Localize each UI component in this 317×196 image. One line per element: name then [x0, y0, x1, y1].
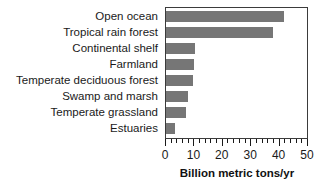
x-tick-minor-22 [227, 139, 228, 143]
x-tick-minor-8 [188, 139, 189, 143]
category-label-swamp-and-marsh: Swamp and marsh [62, 88, 158, 104]
x-tick-minor-12 [199, 139, 200, 143]
bar-estuaries [166, 123, 175, 134]
x-tick-major-0 [165, 139, 166, 146]
x-axis-title: Billion metric tons/yr [165, 167, 309, 179]
x-tick-minor-26 [239, 139, 240, 143]
x-axis-tick-labels: 0 10 20 30 40 50 [140, 148, 317, 164]
bar-swamp-and-marsh [166, 91, 188, 102]
category-axis: Open ocean Tropical rain forest Continen… [0, 8, 162, 138]
category-label-open-ocean: Open ocean [95, 8, 158, 24]
x-tick-minor-4 [176, 139, 177, 143]
x-tick-minor-42 [284, 139, 285, 143]
x-tick-minor-2 [171, 139, 172, 143]
bar-temperate-grassland [166, 107, 186, 118]
x-tick-major-10 [193, 139, 194, 146]
x-tick-minor-38 [273, 139, 274, 143]
x-tick-label-50: 50 [292, 148, 317, 162]
x-tick-minor-28 [245, 139, 246, 143]
category-label-tropical-rain-forest: Tropical rain forest [63, 24, 158, 40]
x-tick-minor-32 [256, 139, 257, 143]
x-tick-major-20 [222, 139, 223, 146]
x-tick-major-40 [279, 139, 280, 146]
x-tick-minor-48 [301, 139, 302, 143]
x-tick-major-30 [250, 139, 251, 146]
x-tick-label-10: 10 [178, 148, 208, 162]
bar-chart: Open ocean Tropical rain forest Continen… [0, 0, 317, 196]
x-tick-minor-36 [267, 139, 268, 143]
category-label-farmland: Farmland [109, 56, 158, 72]
plot-area [165, 7, 308, 139]
x-tick-label-20: 20 [207, 148, 237, 162]
category-label-temperate-grassland: Temperate grassland [51, 104, 158, 120]
x-tick-label-0: 0 [150, 148, 180, 162]
bar-farmland [166, 59, 194, 70]
category-label-temperate-deciduous-forest: Temperate deciduous forest [16, 72, 158, 88]
bar-temperate-deciduous-forest [166, 75, 193, 86]
bar-open-ocean [166, 11, 284, 22]
bar-continental-shelf [166, 43, 195, 54]
x-tick-label-40: 40 [264, 148, 294, 162]
x-tick-minor-34 [262, 139, 263, 143]
x-tick-minor-18 [216, 139, 217, 143]
x-tick-minor-24 [233, 139, 234, 143]
x-tick-minor-16 [210, 139, 211, 143]
category-label-continental-shelf: Continental shelf [72, 40, 158, 56]
bar-tropical-rain-forest [166, 27, 273, 38]
x-axis-ticks [165, 139, 309, 147]
x-tick-minor-44 [290, 139, 291, 143]
x-tick-minor-6 [182, 139, 183, 143]
x-tick-minor-14 [205, 139, 206, 143]
x-tick-minor-46 [296, 139, 297, 143]
category-label-estuaries: Estuaries [110, 120, 158, 136]
x-tick-major-50 [307, 139, 308, 146]
x-tick-label-30: 30 [235, 148, 265, 162]
